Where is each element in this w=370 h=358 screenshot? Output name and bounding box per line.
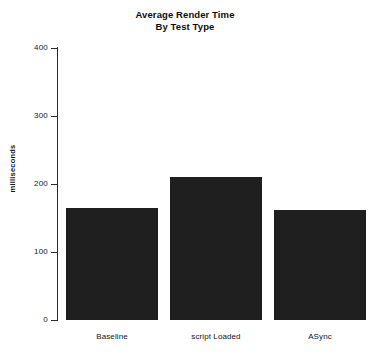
bar xyxy=(170,177,262,320)
bar xyxy=(66,208,158,320)
y-axis-tick-label: 0 xyxy=(8,316,48,324)
bar-chart: Average Render Time By Test Type millise… xyxy=(0,0,370,358)
chart-title-line2: By Test Type xyxy=(0,21,370,33)
y-axis-tick-label: 300 xyxy=(8,112,48,120)
plot-area xyxy=(57,48,362,320)
x-axis-label: Baseline xyxy=(66,332,158,341)
chart-title: Average Render Time By Test Type xyxy=(0,9,370,33)
bar xyxy=(274,210,366,320)
y-axis-title: milliseconds xyxy=(8,119,17,219)
y-axis-tick-label: 200 xyxy=(8,180,48,188)
y-axis-tick-label: 400 xyxy=(8,44,48,52)
chart-title-line1: Average Render Time xyxy=(135,9,234,20)
y-axis-tick-label: 100 xyxy=(8,248,48,256)
x-axis-label: ASync xyxy=(274,332,366,341)
x-axis-label: script Loaded xyxy=(170,332,262,341)
